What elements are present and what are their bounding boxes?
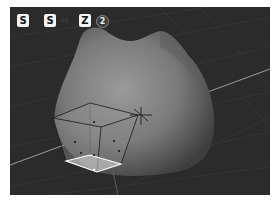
- arrow-right-icon: ⇨: [60, 14, 70, 27]
- 3d-viewport[interactable]: S S ⇨ Z 2: [10, 7, 270, 195]
- key-s: S: [17, 14, 29, 27]
- key-s: S: [44, 14, 56, 27]
- scene-canvas[interactable]: [10, 7, 270, 195]
- key-z: Z: [79, 14, 91, 27]
- step-number-badge: 2: [96, 15, 109, 28]
